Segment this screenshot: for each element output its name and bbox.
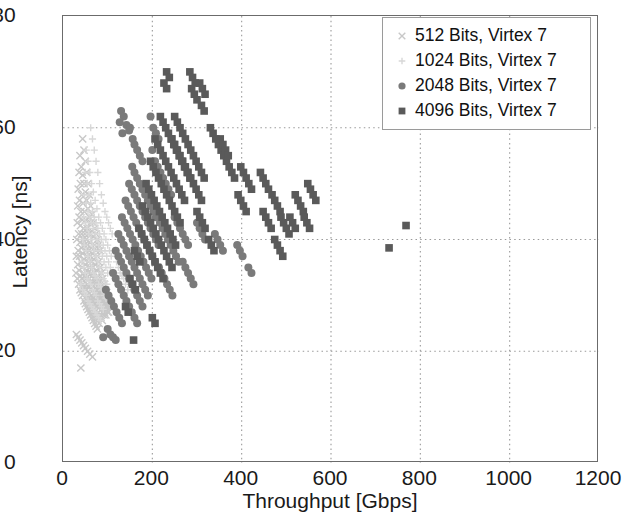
x-tick-label: 200 [134,466,169,490]
scatter-figure: Latency [ns] 020406080 02004006008001000… [0,0,622,512]
legend-item: 1024 Bits, Virtex 7 [389,48,582,73]
x-tick-label: 1200 [575,466,622,490]
legend-label: 1024 Bits, Virtex 7 [415,50,557,71]
x-tick-label: 600 [312,466,347,490]
x-tick-label: 1000 [485,466,532,490]
legend-item: 2048 Bits, Virtex 7 [389,73,582,98]
legend-label: 512 Bits, Virtex 7 [415,25,547,46]
x-axis-label: Throughput [Gbps] [242,489,417,512]
legend-label: 2048 Bits, Virtex 7 [415,75,557,96]
x-tick-label: 400 [223,466,258,490]
legend-item: 512 Bits, Virtex 7 [389,23,582,48]
legend-label: 4096 Bits, Virtex 7 [415,100,557,121]
x-tick-label: 800 [402,466,437,490]
chart-legend: 512 Bits, Virtex 71024 Bits, Virtex 7204… [382,17,591,130]
plus-marker [389,52,415,70]
x-tick-label: 0 [56,466,68,490]
circle-marker [389,77,415,95]
x-marker [389,27,415,45]
series-3 [122,68,410,344]
legend-item: 4096 Bits, Virtex 7 [389,98,582,123]
square-marker [389,102,415,120]
